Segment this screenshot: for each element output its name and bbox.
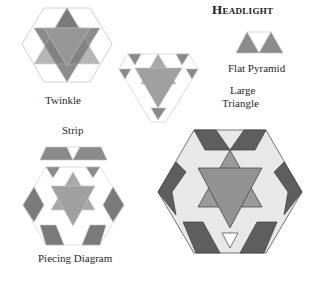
flat-pyramid-label: Flat Pyramid (228, 62, 285, 74)
flat-pyramid-block (236, 32, 283, 53)
twinkle-block (22, 8, 112, 82)
strip-block (40, 147, 107, 160)
piecing-diagram-block (23, 167, 124, 245)
quilt-diagrams (0, 0, 315, 290)
large-triangle-label-line1: Large (230, 84, 255, 96)
strip-label: Strip (62, 124, 83, 136)
twinkle-label: Twinkle (45, 94, 81, 106)
piecing-diagram-label: Piecing Diagram (38, 252, 112, 264)
large-triangle-block (119, 54, 198, 122)
finished-block (158, 130, 302, 253)
large-triangle-label-line2: Triangle (222, 97, 259, 109)
